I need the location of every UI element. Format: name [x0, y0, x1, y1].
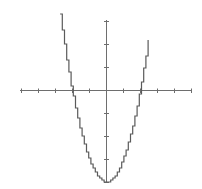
- parabola-curve: [60, 14, 148, 182]
- parabola-plot: [0, 0, 202, 189]
